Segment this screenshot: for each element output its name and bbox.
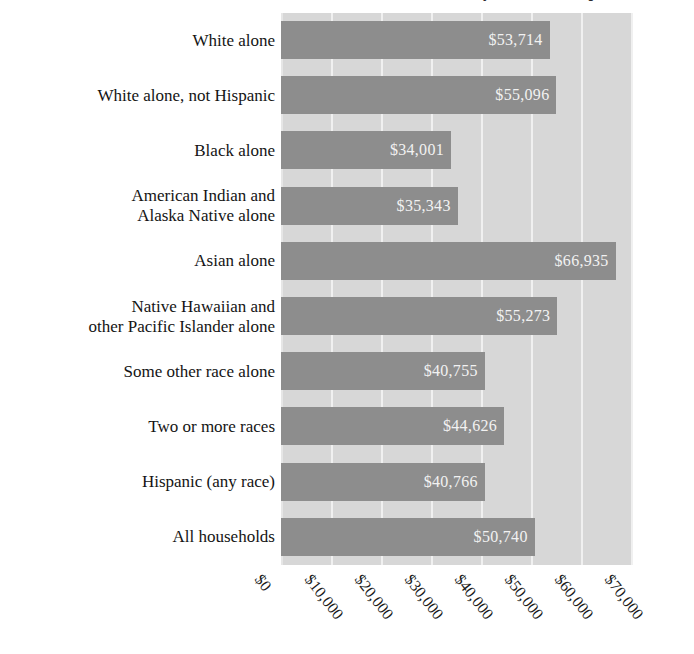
bar-value-label: $40,755 [424, 362, 478, 380]
x-tick-label: $0 [251, 571, 275, 595]
bar-chart: Median Household Income by Race and Hisp… [0, 0, 694, 654]
bar[interactable]: $53,714 [281, 21, 550, 59]
bar[interactable]: $40,766 [281, 463, 485, 501]
category-label: White alone, not Hispanic [0, 86, 275, 106]
bar[interactable]: $55,096 [281, 76, 556, 114]
bar-value-label: $34,001 [390, 141, 444, 159]
bar-row: $35,343 [281, 179, 633, 234]
x-tick-label: $60,000 [551, 571, 597, 623]
bar-row: $40,755 [281, 344, 633, 399]
bar-value-label: $35,343 [397, 197, 451, 215]
bar-row: $55,273 [281, 289, 633, 344]
bar-row: $66,935 [281, 234, 633, 289]
category-label: Black alone [0, 141, 275, 161]
bars-layer: $53,714$55,096$34,001$35,343$66,935$55,2… [281, 13, 633, 565]
bar-row: $50,740 [281, 510, 633, 565]
chart-title: Median Household Income by Race and Hisp… [281, 0, 633, 1]
bar-row: $55,096 [281, 68, 633, 123]
x-tick-label: $70,000 [601, 571, 647, 623]
x-tick-label: $30,000 [401, 571, 447, 623]
category-label: American Indian and Alaska Native alone [0, 186, 275, 226]
bar[interactable]: $40,755 [281, 352, 485, 390]
category-label: Two or more races [0, 417, 275, 437]
bar-row: $40,766 [281, 455, 633, 510]
bar-row: $44,626 [281, 399, 633, 454]
bar-value-label: $55,273 [496, 307, 550, 325]
x-axis-tick-labels: $0$10,000$20,000$30,000$40,000$50,000$60… [281, 567, 694, 654]
x-tick-label: $10,000 [301, 571, 347, 623]
bar-value-label: $40,766 [424, 473, 478, 491]
x-tick-label: $50,000 [501, 571, 547, 623]
bar[interactable]: $66,935 [281, 242, 616, 280]
bar-value-label: $55,096 [495, 86, 549, 104]
plot-area: $53,714$55,096$34,001$35,343$66,935$55,2… [281, 13, 633, 565]
bar-row: $34,001 [281, 123, 633, 178]
bar[interactable]: $44,626 [281, 407, 504, 445]
category-label: Some other race alone [0, 362, 275, 382]
x-tick-label: $40,000 [451, 571, 497, 623]
bar[interactable]: $55,273 [281, 297, 557, 335]
bar[interactable]: $35,343 [281, 187, 458, 225]
category-label: Hispanic (any race) [0, 472, 275, 492]
bar-value-label: $50,740 [474, 528, 528, 546]
x-tick-label: $20,000 [351, 571, 397, 623]
bar[interactable]: $34,001 [281, 131, 451, 169]
bar-row: $53,714 [281, 13, 633, 68]
bar-value-label: $44,626 [443, 417, 497, 435]
category-axis-labels: White aloneWhite alone, not HispanicBlac… [0, 13, 275, 565]
bar-value-label: $66,935 [555, 252, 609, 270]
category-label: White alone [0, 31, 275, 51]
category-label: Native Hawaiian and other Pacific Island… [0, 297, 275, 337]
category-label: All households [0, 527, 275, 547]
bar-value-label: $53,714 [488, 31, 542, 49]
category-label: Asian alone [0, 251, 275, 271]
bar[interactable]: $50,740 [281, 518, 535, 556]
